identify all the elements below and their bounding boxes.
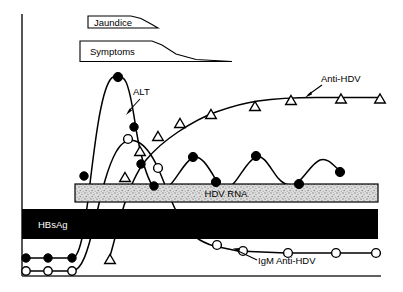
anti-hdv-point (175, 119, 186, 128)
anti-hdv-annotation: Anti-HDV (305, 73, 361, 98)
alt-point (335, 167, 344, 176)
alt-point (137, 160, 145, 168)
symptoms-bar: Symptoms (80, 41, 232, 62)
hdv-rna-label: HDV RNA (205, 188, 248, 199)
anti-hdv-point (153, 132, 164, 141)
hbsag-label: HBsAg (38, 219, 68, 230)
jaundice-bar: Jaundice (88, 16, 158, 28)
alt-point (44, 254, 52, 262)
alt-point (211, 177, 220, 186)
alt-point (251, 151, 260, 160)
igm-anti-hdv-point (239, 247, 248, 256)
igm-anti-hdv-point (124, 135, 133, 144)
anti-hdv-point (336, 94, 347, 103)
alt-point (294, 179, 303, 188)
symptoms-label: Symptoms (90, 46, 135, 57)
anti-hdv-leader-arrowhead (305, 92, 312, 98)
alt-point (188, 152, 197, 161)
anti-hdv-point (375, 94, 386, 103)
alt-point (150, 182, 158, 190)
anti-hdv-point (135, 147, 146, 156)
igm-anti-hdv-point (372, 249, 381, 258)
anti-hdv-point (120, 173, 131, 182)
hbsag-band: HBsAg (22, 209, 378, 239)
alt-point (80, 172, 88, 180)
hdv-serology-chart: Jaundice Symptoms HDV RNA HBsAg (0, 0, 403, 292)
anti-hdv-label: Anti-HDV (321, 73, 361, 84)
alt-point (22, 254, 30, 262)
hdv-rna-band: HDV RNA (75, 184, 378, 202)
igm-anti-hdv-markers (22, 135, 381, 276)
anti-hdv-point (105, 255, 116, 264)
jaundice-label: Jaundice (94, 17, 132, 28)
chart-canvas: Jaundice Symptoms HDV RNA HBsAg (0, 0, 403, 292)
igm-anti-hdv-point (44, 267, 52, 275)
anti-hdv-point (206, 110, 217, 119)
alt-point (130, 123, 138, 131)
alt-markers-secondary (137, 160, 145, 168)
igm-anti-hdv-point (154, 164, 163, 173)
igm-anti-hdv-point (68, 267, 76, 275)
series-layer-lower (26, 76, 381, 271)
alt-label: ALT (133, 86, 150, 97)
hbsag-band-rect (22, 209, 378, 239)
igm-anti-hdv-label: IgM Anti-HDV (258, 255, 316, 266)
igm-anti-hdv-point (213, 241, 222, 250)
alt-point (113, 72, 122, 81)
anti-hdv-point (286, 96, 297, 105)
igm-anti-hdv-point (332, 249, 341, 258)
alt-point (68, 254, 76, 262)
igm-anti-hdv-point (22, 267, 30, 275)
series-markers (22, 72, 386, 275)
